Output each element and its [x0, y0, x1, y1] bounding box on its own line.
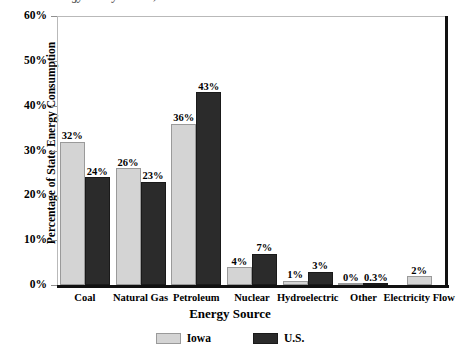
bar-group: 26%23% — [113, 16, 169, 285]
bar-group: 2% — [391, 16, 447, 285]
chart-legend: IowaU.S. — [0, 332, 460, 344]
energy-bar-chart: Iowa Energy Use by Source, 2011 Percenta… — [0, 0, 460, 354]
bar-iowa-other[interactable]: 0% — [338, 283, 363, 285]
chart-title: Iowa Energy Use by Source, 2011 — [22, 0, 182, 2]
y-axis-tick — [51, 285, 57, 286]
bar-iowa-electricity-flow[interactable]: 2% — [407, 276, 432, 285]
legend-label: Iowa — [187, 332, 211, 344]
bar-us-petroleum[interactable]: 43% — [196, 92, 221, 285]
y-axis-tick-label: 0% — [3, 278, 47, 290]
bar-us-nuclear[interactable]: 7% — [252, 254, 277, 285]
bar-group: 4%7% — [224, 16, 280, 285]
bar-iowa-hydroelectric[interactable]: 1% — [283, 281, 308, 285]
y-axis-tick-label: 40% — [3, 99, 47, 111]
bar-value-label: 0.3% — [364, 273, 388, 284]
bar-iowa-nuclear[interactable]: 4% — [227, 267, 252, 285]
bar-value-label: 1% — [287, 270, 303, 281]
x-axis-label-nuclear: Nuclear — [234, 292, 270, 303]
bar-us-hydroelectric[interactable]: 3% — [308, 272, 333, 285]
bar-us-other[interactable]: 0.3% — [363, 283, 388, 285]
y-axis-tick-label: 20% — [3, 188, 47, 200]
legend-item-iowa[interactable]: Iowa — [156, 332, 211, 344]
bar-us-coal[interactable]: 24% — [85, 177, 110, 285]
chart-title-clipped: Iowa Energy Use by Source, 2011 — [0, 0, 460, 7]
y-axis-tick-label: 10% — [3, 233, 47, 245]
bar-value-label: 0% — [343, 273, 359, 284]
bar-group: 32%24% — [57, 16, 113, 285]
legend-swatch — [156, 333, 181, 344]
bar-value-label: 32% — [62, 131, 83, 142]
x-axis-label-electricity-flow: Electricity Flow — [383, 292, 454, 303]
y-axis-tick-label: 30% — [3, 144, 47, 156]
bar-group: 36%43% — [168, 16, 224, 285]
legend-label: U.S. — [284, 332, 304, 344]
x-axis-label-coal: Coal — [74, 292, 95, 303]
y-axis-tick-label: 60% — [3, 9, 47, 21]
y-axis-tick-label: 50% — [3, 54, 47, 66]
legend-item-us[interactable]: U.S. — [253, 332, 304, 344]
x-axis-label-natural-gas: Natural Gas — [113, 292, 168, 303]
bar-group: 1%3% — [280, 16, 336, 285]
bar-iowa-petroleum[interactable]: 36% — [171, 124, 196, 285]
bar-iowa-coal[interactable]: 32% — [60, 142, 85, 285]
x-axis-label-other: Other — [350, 292, 377, 303]
bar-iowa-natural-gas[interactable]: 26% — [116, 168, 141, 285]
bar-value-label: 36% — [173, 113, 194, 124]
bar-us-natural-gas[interactable]: 23% — [141, 182, 166, 285]
bar-value-label: 4% — [232, 257, 248, 268]
bar-value-label: 3% — [312, 261, 328, 272]
bar-value-label: 26% — [118, 158, 139, 169]
x-axis-line — [57, 285, 449, 288]
x-axis-label-petroleum: Petroleum — [173, 292, 219, 303]
bar-value-label: 24% — [87, 167, 108, 178]
x-axis-title: Energy Source — [0, 306, 460, 322]
bar-group: 0%0.3% — [336, 16, 392, 285]
bar-value-label: 43% — [198, 82, 219, 93]
legend-swatch — [253, 333, 278, 344]
bar-value-label: 23% — [143, 171, 164, 182]
bar-value-label: 2% — [411, 266, 427, 277]
plot-area: 0%10%20%30%40%50%60% 32%24%26%23%36%43%4… — [57, 16, 447, 285]
bar-value-label: 7% — [257, 243, 273, 254]
x-axis-label-hydroelectric: Hydroelectric — [277, 292, 339, 303]
